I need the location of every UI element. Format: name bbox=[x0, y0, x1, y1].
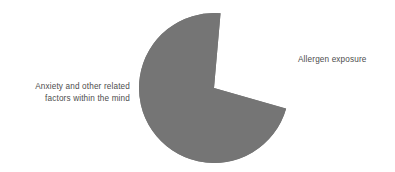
pie-slice-allergen-exposure bbox=[139, 13, 286, 163]
pie-label-line-2: factors within the mind bbox=[35, 93, 130, 105]
pie-label-anxiety-and-other-related-factors: Anxiety and other related factors within… bbox=[35, 81, 130, 106]
pie-label-line-1: Allergen exposure bbox=[298, 55, 367, 64]
pie-label-line-1: Anxiety and other related bbox=[35, 81, 130, 93]
pie-chart: Anxiety and other related factors within… bbox=[0, 0, 395, 172]
pie-label-allergen-exposure: Allergen exposure bbox=[298, 54, 367, 66]
